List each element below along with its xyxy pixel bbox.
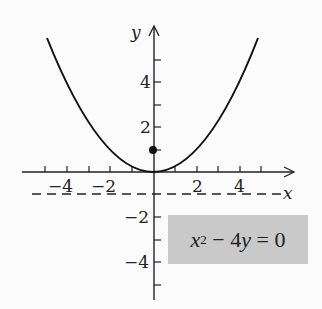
y-tick-label: 2 (140, 117, 151, 137)
y-tick-label: 4 (140, 72, 151, 92)
x-tick-label: 2 (192, 176, 203, 196)
x-tick-label: −4 (48, 176, 73, 196)
eq-minus: − 4 (207, 227, 241, 253)
x-tick-label: 4 (234, 176, 245, 196)
equation-label: x2 − 4y = 0 (168, 215, 308, 264)
eq-rhs: = 0 (251, 227, 285, 253)
y-axis-label: y (130, 22, 141, 42)
x-axis-label: x (283, 183, 293, 203)
focus-point (149, 146, 157, 154)
y-tick-label: −2 (124, 207, 149, 227)
parabola-figure: y x −4 −2 2 4 4 2 −2 −4 x2 − 4y = 0 (0, 0, 322, 309)
y-tick-label: −4 (124, 252, 149, 272)
eq-x: x (191, 227, 201, 253)
x-tick-label: −2 (91, 176, 116, 196)
eq-y: y (241, 227, 251, 253)
